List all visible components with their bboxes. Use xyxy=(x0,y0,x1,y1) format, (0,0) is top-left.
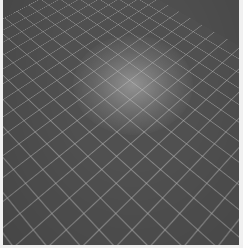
rendered-scene xyxy=(3,0,239,245)
grid-floor xyxy=(3,0,239,245)
image-frame xyxy=(0,0,243,248)
